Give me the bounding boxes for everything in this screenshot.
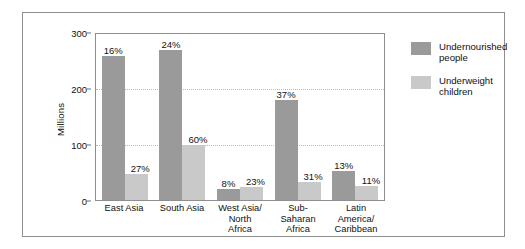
- bar-undernourished-sub-saharan-africa[interactable]: 37%: [275, 34, 298, 200]
- bar-label-undernourished-sub-saharan-africa: 37%: [277, 89, 296, 100]
- legend-swatch-underweight-children: [411, 76, 431, 89]
- x-label-sub-saharan-line2: Saharan: [270, 214, 325, 225]
- bar-label-undernourished-east-asia: 16%: [104, 45, 123, 56]
- legend-label-underweight-line1: Underweight: [439, 75, 493, 86]
- x-label-sub-saharan-line1: Sub-: [270, 203, 325, 214]
- x-label-east-asia-line1: East Asia: [96, 203, 151, 214]
- legend-item-underweight-children[interactable]: Underweight children: [411, 75, 525, 98]
- plot-container: Millions 300 200 100 0 16% 27: [53, 21, 401, 233]
- x-label-latin-line1: Latin: [328, 203, 383, 214]
- bar-label-underweight-latin-america-caribbean: 11%: [362, 175, 380, 186]
- bar-undernourished-west-asia-north-africa[interactable]: 8%: [217, 34, 240, 200]
- x-label-latin-line3: Caribbean: [328, 224, 383, 235]
- bar-underweight-south-asia[interactable]: 60%: [182, 34, 205, 200]
- bar-label-undernourished-west-asia-north-africa: 8%: [222, 178, 236, 189]
- bar-underweight-west-asia-north-africa[interactable]: 23%: [240, 34, 263, 200]
- x-label-west-asia-line3: Africa: [212, 224, 267, 235]
- bar-group-sub-saharan-africa: 37% 31%: [270, 34, 325, 200]
- bar-group-east-asia: 16% 27%: [97, 34, 152, 200]
- x-label-south-asia: South Asia: [154, 203, 209, 235]
- x-label-sub-saharan-africa: Sub- Saharan Africa: [270, 203, 325, 235]
- x-label-west-asia-line1: West Asia/: [212, 203, 267, 214]
- y-tickmark-0: [87, 201, 91, 202]
- y-axis-ticks: 300 200 100 0: [67, 33, 91, 201]
- bar-label-undernourished-latin-america-caribbean: 13%: [334, 160, 353, 171]
- bar-groups: 16% 27% 24% 60%: [96, 34, 384, 200]
- legend-label-undernourished-line2: people: [439, 52, 507, 63]
- legend-item-undernourished-people[interactable]: Undernourished people: [411, 41, 525, 64]
- bar-group-south-asia: 24% 60%: [155, 34, 210, 200]
- legend-label-undernourished-people: Undernourished people: [439, 41, 507, 64]
- legend-swatch-undernourished-people: [411, 42, 431, 55]
- bar-undernourished-latin-america-caribbean[interactable]: 13%: [332, 34, 355, 200]
- bar-group-latin-america-caribbean: 13% 11%: [328, 34, 383, 200]
- bar-label-underweight-west-asia-north-africa: 23%: [246, 176, 265, 187]
- x-label-sub-saharan-line3: Africa: [270, 224, 325, 235]
- bar-label-underweight-sub-saharan-africa: 31%: [304, 171, 323, 182]
- y-tickmark-300: [87, 33, 91, 34]
- plot-area: 16% 27% 24% 60%: [95, 33, 385, 201]
- bar-underweight-latin-america-caribbean[interactable]: 11%: [355, 34, 378, 200]
- x-label-latin-line2: America/: [328, 214, 383, 225]
- bar-undernourished-east-asia[interactable]: 16%: [102, 34, 125, 200]
- legend-label-underweight-children: Underweight children: [439, 75, 493, 98]
- legend-label-underweight-line2: children: [439, 86, 493, 97]
- legend-label-undernourished-line1: Undernourished: [439, 41, 507, 52]
- chart-figure-frame: Millions 300 200 100 0 16% 27: [22, 12, 505, 237]
- y-tickmark-100: [87, 145, 91, 146]
- x-label-east-asia: East Asia: [96, 203, 151, 235]
- y-tick-200: 200: [71, 83, 87, 94]
- bar-label-underweight-east-asia: 27%: [131, 163, 150, 174]
- bar-group-west-asia-north-africa: 8% 23%: [213, 34, 268, 200]
- x-label-west-asia-line2: North: [212, 214, 267, 225]
- x-label-latin-america-caribbean: Latin America/ Caribbean: [328, 203, 383, 235]
- y-tickmark-200: [87, 88, 91, 89]
- y-tick-100: 100: [71, 140, 87, 151]
- bar-label-underweight-south-asia: 60%: [188, 134, 207, 145]
- x-label-south-asia-line1: South Asia: [154, 203, 209, 214]
- bar-underweight-sub-saharan-africa[interactable]: 31%: [298, 34, 321, 200]
- bar-underweight-east-asia[interactable]: 27%: [125, 34, 148, 200]
- bar-label-undernourished-south-asia: 24%: [161, 39, 180, 50]
- chart-legend: Undernourished people Underweight childr…: [411, 41, 525, 109]
- x-axis-labels: East Asia South Asia West Asia/ North Af…: [95, 203, 385, 235]
- bar-undernourished-south-asia[interactable]: 24%: [159, 34, 182, 200]
- y-tick-300: 300: [71, 28, 87, 39]
- x-label-west-asia-north-africa: West Asia/ North Africa: [212, 203, 267, 235]
